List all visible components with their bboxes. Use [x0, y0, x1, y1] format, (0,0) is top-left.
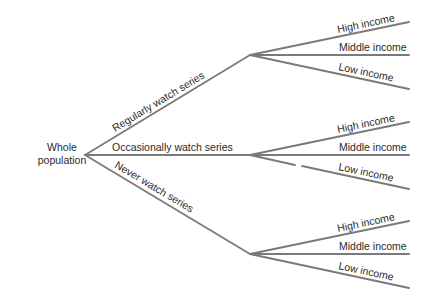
tree-diagram: Whole population Regularly watch series … [0, 0, 432, 307]
branch-label-regularly: Regularly watch series [110, 69, 207, 134]
leaf-label-never-middle: Middle income [339, 240, 407, 252]
root-label-line1: Whole [47, 141, 77, 153]
branch-label-occasionally: Occasionally watch series [112, 141, 233, 153]
leaf-label-occasionally-middle: Middle income [339, 141, 407, 153]
root-label-line2: population [38, 154, 87, 166]
leaf-line-occasionally-low-a [250, 155, 295, 165]
branch-label-never: Never watch series [113, 158, 196, 214]
branch-line-never [85, 155, 250, 254]
branch-line-regularly [85, 55, 250, 155]
leaf-label-regularly-middle: Middle income [339, 41, 407, 53]
